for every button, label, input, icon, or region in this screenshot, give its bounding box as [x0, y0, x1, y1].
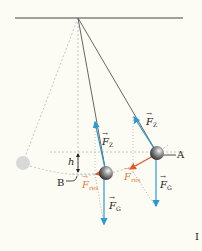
- label-fres-a: →Fres: [124, 172, 140, 183]
- fres-arrow-a: [130, 156, 153, 169]
- label-fres-b: →Fres: [82, 180, 98, 191]
- ball-a: [150, 146, 164, 160]
- vector-arrow-icon: →: [124, 166, 130, 173]
- height-arrow-down-icon: [76, 169, 80, 173]
- label-a: A: [177, 150, 184, 160]
- vector-arrow-icon: →: [160, 174, 166, 181]
- vector-arrow-icon: →: [146, 111, 152, 118]
- swing-arc: [30, 145, 168, 175]
- label-fg-b: →FG: [109, 201, 121, 212]
- vector-arrow-icon: →: [109, 195, 115, 202]
- label-fg-a: →FG: [160, 180, 172, 191]
- ghost-ball: [16, 156, 30, 170]
- ghost-string: [25, 18, 78, 157]
- vector-arrow-icon: →: [82, 174, 88, 181]
- height-arrow-up-icon: [76, 153, 80, 157]
- label-b-leader: [66, 176, 77, 181]
- figure-marker: I: [195, 232, 199, 242]
- vector-arrow-icon: →: [102, 131, 108, 138]
- ball-b: [99, 166, 113, 180]
- label-fz-a: →FZ: [146, 117, 157, 128]
- pendulum-diagram: [0, 0, 202, 251]
- label-h: h: [68, 157, 74, 167]
- label-fz-b: →FZ: [102, 137, 113, 148]
- label-b: B: [57, 178, 64, 188]
